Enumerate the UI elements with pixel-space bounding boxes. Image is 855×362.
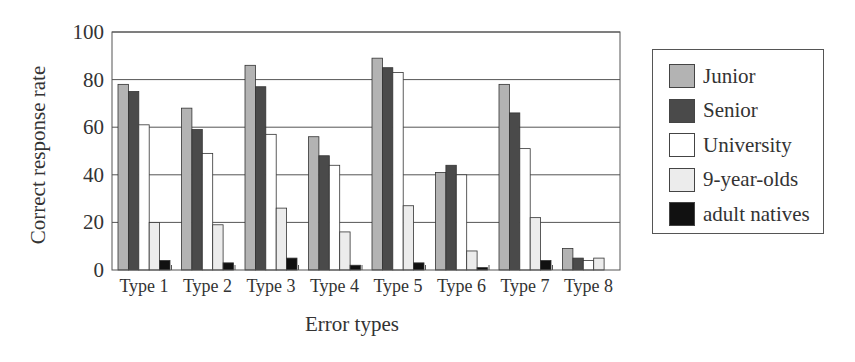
y-tick-label: 60 — [83, 115, 104, 139]
x-tick-label: Type 1 — [119, 276, 168, 296]
bar-9-year-olds — [340, 232, 350, 270]
bar-university — [139, 125, 149, 270]
x-tick-label: Type 3 — [246, 276, 295, 296]
x-tick-label: Type 8 — [564, 276, 613, 296]
legend-item: Junior — [669, 63, 756, 89]
bar-junior — [182, 108, 192, 270]
bar-senior — [192, 130, 202, 270]
legend-label: University — [703, 133, 792, 158]
x-tick-label: Type 4 — [310, 276, 359, 296]
bar-9-year-olds — [594, 258, 604, 270]
bar-senior — [509, 113, 519, 270]
bar-9-year-olds — [403, 206, 413, 270]
bar-junior — [563, 249, 573, 270]
bar-senior — [573, 258, 583, 270]
y-tick-label: 100 — [73, 20, 105, 44]
bar-university — [583, 260, 593, 270]
legend-label: 9-year-olds — [703, 167, 798, 192]
bar-university — [202, 153, 212, 270]
y-tick-label: 40 — [83, 163, 104, 187]
bar-junior — [309, 137, 319, 270]
x-axis-label: Error types — [305, 312, 399, 337]
bar-senior — [382, 68, 392, 270]
bar-senior — [255, 87, 265, 270]
legend-item: adult natives — [669, 201, 810, 227]
bar-university — [329, 165, 339, 270]
legend-label: Senior — [703, 98, 758, 123]
bar-junior — [372, 58, 382, 270]
x-tick-label: Type 6 — [437, 276, 486, 296]
bars — [118, 58, 604, 270]
legend-item: Senior — [669, 98, 758, 124]
legend-swatch — [669, 168, 695, 192]
bar-university — [456, 175, 466, 270]
bar-junior — [499, 84, 509, 270]
y-tick-label: 20 — [83, 210, 104, 234]
y-tick-label: 0 — [94, 258, 105, 282]
legend: JuniorSeniorUniversity9-year-oldsadult n… — [652, 49, 824, 234]
x-tick-label: Type 2 — [183, 276, 232, 296]
legend-swatch — [669, 64, 695, 88]
legend-swatch — [669, 133, 695, 157]
bar-9-year-olds — [467, 251, 477, 270]
bar-senior — [319, 156, 329, 270]
bar-adult-natives — [350, 265, 360, 270]
bar-adult-natives — [223, 263, 233, 270]
legend-item: 9-year-olds — [669, 167, 798, 193]
x-tick-label: Type 7 — [500, 276, 549, 296]
y-axis-label: Correct response rate — [26, 66, 51, 244]
bar-university — [266, 134, 276, 270]
y-tick-labels: 020406080100 — [73, 20, 105, 282]
bar-adult-natives — [160, 260, 170, 270]
legend-item: University — [669, 132, 792, 158]
bar-9-year-olds — [213, 225, 223, 270]
legend-swatch — [669, 202, 695, 226]
legend-label: adult natives — [703, 202, 810, 227]
bar-9-year-olds — [276, 208, 286, 270]
legend-swatch — [669, 99, 695, 123]
x-tick-labels: Type 1Type 2Type 3Type 4Type 5Type 6Type… — [119, 276, 613, 296]
bar-9-year-olds — [530, 218, 540, 270]
bar-adult-natives — [541, 260, 551, 270]
x-tick-label: Type 5 — [373, 276, 422, 296]
bar-9-year-olds — [149, 222, 159, 270]
bar-senior — [128, 92, 138, 271]
bar-junior — [245, 65, 255, 270]
legend-label: Junior — [703, 64, 756, 89]
bar-university — [520, 149, 530, 270]
bar-adult-natives — [287, 258, 297, 270]
bar-junior — [436, 172, 446, 270]
bar-senior — [446, 165, 456, 270]
bar-university — [393, 72, 403, 270]
bar-junior — [118, 84, 128, 270]
y-tick-label: 80 — [83, 68, 104, 92]
bar-adult-natives — [414, 263, 424, 270]
